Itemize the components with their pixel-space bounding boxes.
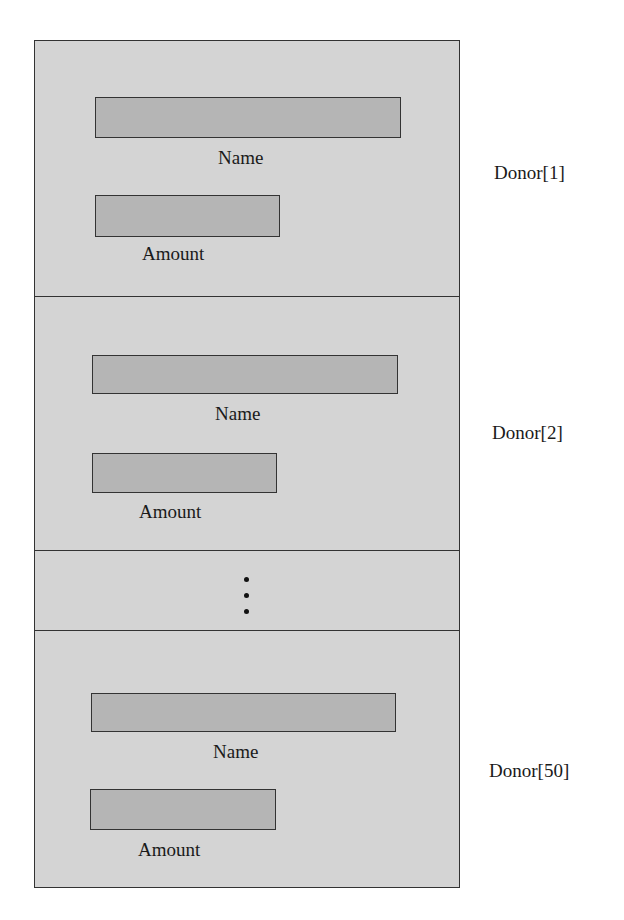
ellipsis-dot	[244, 577, 249, 582]
amount-label: Amount	[142, 243, 204, 265]
ellipsis-dot	[244, 609, 249, 614]
donor-array-diagram: Name Amount Name Amount Name Amount Dono…	[0, 0, 624, 920]
ellipsis-dot	[244, 593, 249, 598]
name-field	[95, 97, 401, 138]
amount-label: Amount	[139, 501, 201, 523]
name-field	[92, 355, 398, 394]
donor-record-50: Name Amount	[35, 631, 459, 887]
name-label: Name	[215, 403, 260, 425]
name-label: Name	[213, 741, 258, 763]
amount-field	[90, 789, 276, 830]
amount-field	[95, 195, 280, 237]
donor-record-2: Name Amount	[35, 297, 459, 551]
donor-record-1: Name Amount	[35, 41, 459, 297]
amount-field	[92, 453, 277, 493]
donor-array-container: Name Amount Name Amount Name Amount	[34, 40, 460, 888]
amount-label: Amount	[138, 839, 200, 861]
donor-50-label: Donor[50]	[489, 760, 569, 782]
donor-2-label: Donor[2]	[492, 422, 563, 444]
name-label: Name	[218, 147, 263, 169]
ellipsis-section	[35, 551, 459, 631]
donor-1-label: Donor[1]	[494, 162, 565, 184]
name-field	[91, 693, 396, 732]
